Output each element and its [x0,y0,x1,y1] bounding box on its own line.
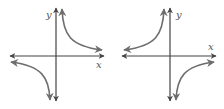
y-axis-label: y [45,9,52,20]
y-axis-label: y [175,9,182,20]
x-axis-label: x [208,41,214,52]
hyperbola-plot: y x [0,0,112,109]
curve-branch-q2 [124,9,164,50]
hyperbola-plot: y x [112,0,224,109]
curve-branch-q3 [11,62,50,100]
curve-branch-q4 [176,62,214,100]
graph-right: y x [112,0,224,109]
graph-left: y x [0,0,112,109]
curve-branch-q1 [62,9,102,50]
x-axis-label: x [96,59,102,70]
